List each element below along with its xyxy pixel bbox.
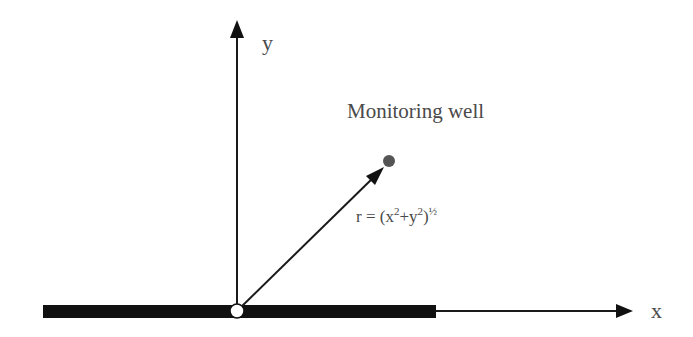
y-axis-label: y [262,30,273,55]
formula-exponent: ½ [429,205,437,217]
formula-mid: +y [399,207,418,226]
monitoring-well-label: Monitoring well [347,99,484,123]
x-axis-label: x [651,298,662,323]
y-axis-arrow-icon [230,20,244,38]
radius-formula: r = (x2+y2)½ [356,205,437,226]
monitoring-well-dot [383,155,395,167]
origin-well-circle [230,304,244,318]
diagram-canvas: y x Monitoring well r = (x2+y2)½ [0,0,693,337]
radius-arrow [237,175,376,311]
formula-prefix: r = (x [356,207,394,226]
x-axis-arrow-icon [616,304,633,318]
